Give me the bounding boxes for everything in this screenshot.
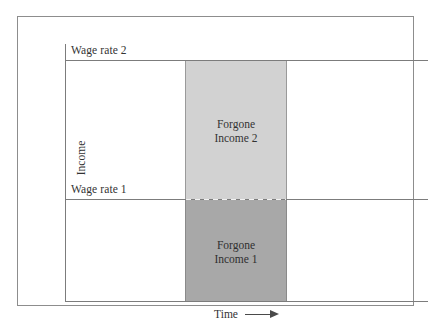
x-axis-title: Time <box>65 308 428 320</box>
x-axis-title-text: Time <box>214 308 238 320</box>
y-axis-line <box>65 44 66 302</box>
region-forgone-income-2-label: Forgone Income 2 <box>185 117 287 145</box>
wage-rate-2-label: Wage rate 2 <box>71 44 127 56</box>
figure-container: Wage rate 2 Wage rate 1 Forgone Income 2… <box>0 0 430 322</box>
y-axis-title: Income <box>75 118 87 198</box>
x-axis-line <box>65 301 428 302</box>
region-forgone-income-2-label-line2: Income 2 <box>185 131 287 145</box>
right-arrow-icon <box>245 310 279 319</box>
wage-rate-2-line <box>65 60 428 61</box>
region-forgone-income-1-label: Forgone Income 1 <box>185 238 287 266</box>
region-forgone-income-2-label-line1: Forgone <box>185 117 287 131</box>
region-forgone-income-1-label-line2: Income 1 <box>185 252 287 266</box>
plot-area: Wage rate 2 Wage rate 1 Forgone Income 2… <box>65 44 428 302</box>
figure-border: Wage rate 2 Wage rate 1 Forgone Income 2… <box>17 16 414 306</box>
wage-rate-1-dashed-segment <box>186 199 286 200</box>
region-forgone-income-1-label-line1: Forgone <box>185 238 287 252</box>
